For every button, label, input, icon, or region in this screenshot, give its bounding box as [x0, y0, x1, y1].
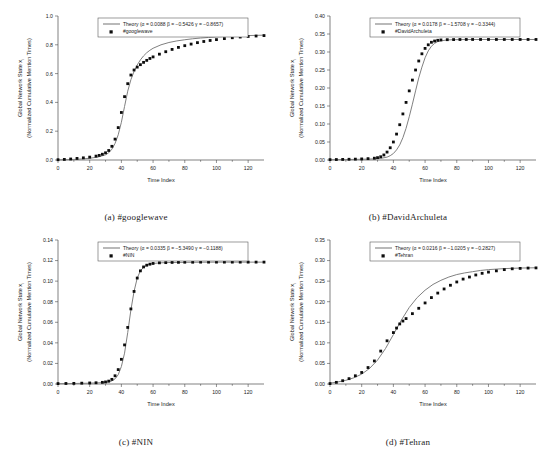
y-tick-label: 0.8: [46, 42, 53, 48]
y-tick-label: 0.00: [315, 381, 325, 387]
plot-b: 0204060801001200.000.050.100.150.200.250…: [272, 0, 544, 200]
data-point-marker: [360, 158, 363, 161]
data-point-marker: [120, 358, 123, 361]
data-point-marker: [117, 368, 120, 371]
legend-data-label: #NIN: [123, 252, 135, 258]
data-point-marker: [519, 267, 522, 270]
data-point-marker: [379, 155, 382, 158]
data-point-marker: [223, 37, 226, 40]
y-axis-title-line1: Global Network State xi: [17, 283, 25, 341]
data-point-marker: [117, 126, 120, 129]
data-point-marker: [452, 38, 455, 41]
data-point-marker: [120, 111, 123, 114]
data-point-marker: [398, 123, 401, 126]
data-point-marker: [139, 63, 142, 66]
data-point-marker: [430, 41, 433, 44]
data-point-marker: [123, 344, 126, 347]
y-axis-title-line1: Global Network State xi: [17, 59, 25, 117]
x-tick-label: 80: [182, 389, 188, 395]
data-point-marker: [427, 43, 430, 46]
data-point-marker: [126, 326, 129, 329]
y-tick-label: 0.15: [315, 319, 325, 325]
data-point-marker: [395, 133, 398, 136]
data-point-marker: [57, 382, 60, 385]
y-tick-label: 0.06: [43, 319, 53, 325]
data-point-marker: [114, 374, 117, 377]
legend-theory-label: Theory (α = 0.0088 β = −0.5426 γ = −0.86…: [123, 21, 223, 27]
legend-data-square-swatch: [110, 254, 113, 257]
data-point-marker: [209, 39, 212, 42]
data-point-marker: [479, 38, 482, 41]
data-point-marker: [535, 266, 538, 269]
data-point-marker: [465, 38, 468, 41]
data-point-marker: [503, 268, 506, 271]
x-axis-title: Time Index: [419, 401, 447, 407]
x-tick-label: 40: [390, 165, 396, 171]
data-point-marker: [440, 39, 443, 42]
data-point-group: [57, 34, 266, 161]
data-point-marker: [152, 262, 155, 265]
y-tick-label: 0.4: [46, 99, 53, 105]
x-tick-label: 20: [359, 389, 365, 395]
data-point-marker: [459, 38, 462, 41]
data-point-marker: [171, 48, 174, 51]
data-point-marker: [341, 379, 344, 382]
y-tick-label: 0.00: [43, 381, 53, 387]
data-point-marker: [360, 371, 363, 374]
panel-d: 0204060801001200.000.050.100.150.200.250…: [272, 224, 544, 449]
x-tick-label: 100: [212, 165, 221, 171]
data-point-marker: [190, 43, 193, 46]
panel-b: 0204060801001200.000.050.100.150.200.250…: [272, 0, 544, 224]
data-point-marker: [158, 53, 161, 56]
y-tick-label: 0.10: [315, 340, 325, 346]
data-point-marker: [142, 266, 145, 269]
data-point-marker: [519, 38, 522, 41]
y-axis-title-line2: (Normalized Cumulative Mention Times): [298, 38, 304, 138]
data-point-marker: [145, 59, 148, 62]
data-point-marker: [329, 382, 332, 385]
data-point-marker: [129, 74, 132, 77]
data-point-marker: [430, 296, 433, 299]
theory-curve: [58, 35, 264, 160]
data-point-marker: [126, 82, 129, 85]
data-point-marker: [495, 269, 498, 272]
data-point-marker: [348, 377, 351, 380]
data-point-marker: [110, 145, 113, 148]
y-tick-label: 0.2: [46, 128, 53, 134]
legend-theory-label: Theory (α = 0.0216 β = −1.0205 γ = −0.28…: [395, 245, 495, 251]
data-point-marker: [392, 141, 395, 144]
legend-data-label: #DavidArchuleta: [395, 28, 432, 34]
theory-curve: [330, 39, 536, 159]
data-point-marker: [354, 158, 357, 161]
data-point-marker: [527, 267, 530, 270]
data-point-marker: [133, 290, 136, 293]
y-tick-label: 0.35: [315, 237, 325, 243]
y-axis-title-line2: (Normalized Cumulative Mention Times): [298, 262, 304, 362]
data-point-marker: [411, 79, 414, 82]
y-tick-label: 0.0: [46, 157, 53, 163]
x-tick-label: 20: [87, 389, 93, 395]
data-point-marker: [503, 38, 506, 41]
x-tick-label: 120: [244, 165, 253, 171]
panel-caption-c: (c) #NIN: [0, 437, 272, 447]
data-point-marker: [76, 157, 79, 160]
y-tick-label: 0.05: [315, 139, 325, 145]
data-point-marker: [511, 38, 514, 41]
data-point-marker: [367, 366, 370, 369]
data-point-marker: [133, 69, 136, 72]
y-axis-title-line2: (Normalized Cumulative Mention Times): [26, 262, 32, 362]
plot-a: 0204060801001200.00.20.40.60.81.0Time In…: [0, 0, 272, 200]
data-point-marker: [107, 380, 110, 383]
data-point-marker: [373, 157, 376, 160]
data-point-marker: [471, 38, 474, 41]
data-point-marker: [462, 278, 465, 281]
y-tick-label: 0.10: [315, 121, 325, 127]
theory-curve: [58, 262, 264, 384]
data-point-marker: [487, 38, 490, 41]
data-point-marker: [354, 374, 357, 377]
legend-data-label: #googlewave: [123, 28, 153, 34]
data-point-marker: [414, 69, 417, 72]
data-point-marker: [80, 382, 83, 385]
x-tick-label: 100: [484, 389, 493, 395]
data-point-marker: [405, 101, 408, 104]
